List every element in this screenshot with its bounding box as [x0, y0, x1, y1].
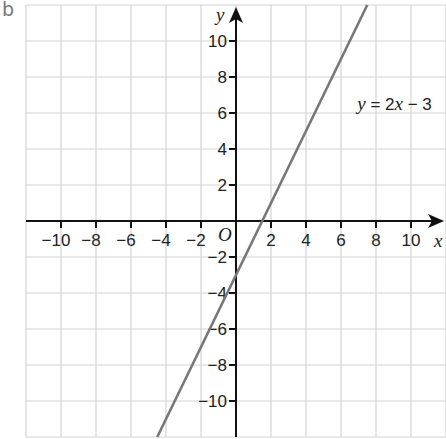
y-tick-label: 6	[218, 104, 227, 123]
y-tick-label: −10	[198, 392, 227, 411]
y-tick-label: −8	[208, 356, 227, 375]
y-axis-label: y	[214, 4, 225, 25]
x-axis-label: x	[433, 230, 443, 251]
x-tick-label: −8	[81, 231, 100, 250]
origin-label: O	[218, 224, 232, 245]
tick-labels: −10−8−6−4−2246810108642−2−4−6−8−10xyO	[42, 4, 443, 411]
y-tick-label: −2	[208, 248, 227, 267]
x-tick-label: −2	[186, 231, 205, 250]
y-tick-label: 4	[218, 140, 227, 159]
axes	[26, 7, 444, 437]
y-tick-label: 8	[218, 68, 227, 87]
x-tick-label: 10	[402, 231, 421, 250]
annotations: y = 2x − 3	[355, 93, 432, 114]
equation-label: y = 2x − 3	[355, 93, 432, 114]
y-tick-label: 10	[208, 32, 227, 51]
x-tick-label: 4	[301, 231, 310, 250]
x-tick-label: −4	[151, 231, 170, 250]
chart: −10−8−6−4−2246810108642−2−4−6−8−10xyO y …	[0, 0, 446, 439]
y-tick-label: 2	[218, 176, 227, 195]
x-tick-label: −10	[42, 231, 71, 250]
x-tick-label: 8	[371, 231, 380, 250]
x-tick-label: −6	[116, 231, 135, 250]
x-tick-label: 2	[266, 231, 275, 250]
x-tick-label: 6	[336, 231, 345, 250]
